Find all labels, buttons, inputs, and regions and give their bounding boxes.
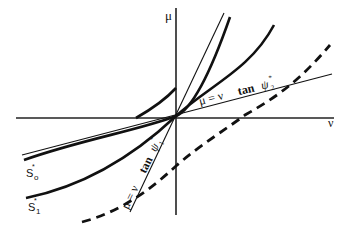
nu-axis-label: ν [328, 116, 334, 130]
diagram-canvas: μ ν S * o S * 1 μ = ν tan ψ * 2 μ = ν ta… [0, 0, 352, 235]
curve-upper [136, 88, 176, 118]
svg-text:*: * [268, 74, 274, 83]
svg-text:1: 1 [36, 207, 41, 216]
svg-text:μ = ν: μ = ν [197, 88, 225, 108]
curve-s0 [24, 17, 230, 160]
svg-text:*: * [32, 163, 35, 170]
svg-text:tan: tan [236, 81, 256, 99]
label-s1: S * 1 [28, 197, 41, 216]
label-s0: S * o [26, 163, 39, 182]
curve-s1 [26, 25, 274, 198]
mu-axis-label: μ [165, 8, 172, 23]
svg-text:*: * [34, 197, 37, 204]
svg-text:tan: tan [136, 154, 156, 175]
svg-text:o: o [34, 173, 39, 182]
svg-text:2: 2 [270, 83, 276, 92]
